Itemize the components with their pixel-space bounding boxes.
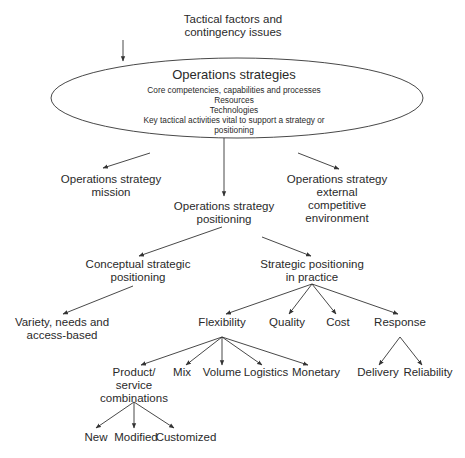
arrow-flexibility-to-product: [141, 337, 222, 365]
arrow-flexibility-to-logistics: [222, 337, 262, 365]
ellipse-title: Operations strategies: [143, 68, 324, 81]
node-volume: Volume: [203, 366, 241, 379]
arrow-response-to-reliability: [400, 337, 422, 365]
arrow-practice-to-flexibility: [226, 284, 312, 314]
node-new: New: [84, 431, 107, 444]
arrow-positioning-to-practice: [262, 237, 311, 256]
node-cost: Cost: [326, 316, 350, 329]
node-external-environment: Operations strategy external competitive…: [287, 173, 387, 225]
node-monetary: Monetary: [292, 366, 340, 379]
node-response: Response: [374, 316, 426, 329]
node-operations-strategies: Operations strategies Core competencies,…: [143, 68, 324, 135]
arrow-conceptual-to-variety: [63, 286, 133, 314]
node-positioning-in-practice: Strategic positioning in practice: [260, 258, 364, 284]
arrow-practice-to-response: [312, 284, 398, 314]
arrow-product-to-customized: [134, 402, 174, 428]
node-mix: Mix: [173, 366, 191, 379]
arrow-practice-to-quality: [289, 284, 312, 314]
node-tactical-factors: Tactical factors and contingency issues: [184, 13, 282, 39]
arrow-ellipse-to-external: [298, 153, 339, 169]
arrow-flexibility-to-monetary: [222, 337, 308, 365]
node-modified: Modified: [114, 431, 157, 444]
node-flexibility: Flexibility: [198, 316, 245, 329]
arrow-flexibility-to-mix: [186, 337, 222, 365]
node-positioning: Operations strategy positioning: [174, 200, 274, 226]
arrow-positioning-to-conceptual: [139, 227, 222, 256]
node-quality: Quality: [269, 316, 305, 329]
node-delivery: Delivery: [357, 366, 399, 379]
node-logistics: Logistics: [244, 366, 289, 379]
node-mission: Operations strategy mission: [61, 173, 161, 199]
arrow-response-to-delivery: [379, 337, 400, 365]
node-variety: Variety, needs and access-based: [15, 316, 109, 342]
arrow-product-to-new: [96, 402, 134, 428]
node-conceptual-positioning: Conceptual strategic positioning: [86, 258, 191, 284]
arrow-ellipse-to-mission: [103, 153, 150, 168]
node-product-service: Product/ service combinations: [100, 366, 168, 405]
node-customized: Customized: [156, 431, 217, 444]
node-reliability: Reliability: [403, 366, 452, 379]
